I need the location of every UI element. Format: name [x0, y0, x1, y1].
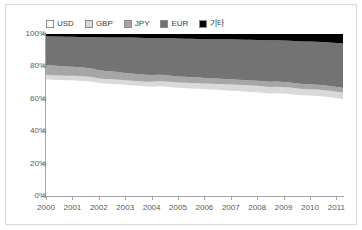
x-tick-mark	[257, 196, 258, 200]
chart-legend: USD GBP JPY EUR 기타	[46, 16, 336, 31]
stacked-area-svg	[46, 34, 343, 196]
x-tick-mark	[178, 196, 179, 200]
legend-label-jpy: JPY	[135, 19, 150, 28]
y-tick-label: 20%	[6, 160, 46, 168]
legend-label-eur: EUR	[171, 19, 188, 28]
x-tick-mark	[46, 196, 47, 200]
legend-label-gbp: GBP	[96, 19, 113, 28]
y-tick-label: 40%	[6, 127, 46, 135]
y-tick-label: 80%	[6, 62, 46, 70]
plot-area	[46, 34, 343, 196]
area-band-usd	[46, 79, 343, 196]
x-tick-mark	[231, 196, 232, 200]
x-tick-mark	[125, 196, 126, 200]
legend-item-usd[interactable]: USD	[46, 19, 74, 28]
legend-swatch-usd	[46, 20, 54, 28]
legend-item-jpy[interactable]: JPY	[124, 19, 150, 28]
legend-item-other[interactable]: 기타	[199, 19, 224, 28]
legend-label-usd: USD	[57, 19, 74, 28]
x-tick-mark	[336, 196, 337, 200]
y-tick-label: 0%	[6, 192, 46, 200]
x-tick-mark	[204, 196, 205, 200]
x-tick-mark	[310, 196, 311, 200]
y-axis: 0%20%40%60%80%100%	[0, 0, 46, 230]
legend-swatch-other	[199, 20, 207, 28]
x-tick-mark	[72, 196, 73, 200]
legend-swatch-eur	[160, 20, 168, 28]
x-tick-mark	[152, 196, 153, 200]
x-axis-line	[45, 196, 344, 197]
x-tick-mark	[284, 196, 285, 200]
legend-swatch-jpy	[124, 20, 132, 28]
legend-label-other: 기타	[210, 19, 224, 28]
legend-item-eur[interactable]: EUR	[160, 19, 188, 28]
x-tick-mark	[99, 196, 100, 200]
legend-item-gbp[interactable]: GBP	[85, 19, 113, 28]
y-tick-label: 100%	[6, 30, 46, 38]
x-tick-label: 2011	[319, 203, 353, 212]
chart-screenshot: USD GBP JPY EUR 기타 0%20%40%60%80%100% 20…	[0, 0, 362, 230]
legend-swatch-gbp	[85, 20, 93, 28]
y-tick-label: 60%	[6, 95, 46, 103]
